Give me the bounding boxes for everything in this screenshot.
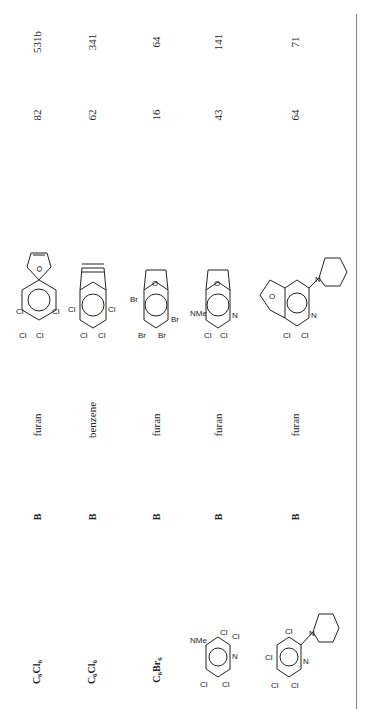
method-cell: B (32, 514, 43, 521)
adduct-structure-5: O N N Cl Cl (255, 250, 350, 340)
yield-cell: 16 (150, 110, 162, 121)
svg-text:Cl: Cl (285, 627, 293, 636)
svg-text:Cl: Cl (301, 331, 309, 340)
ref-cell: 71 (289, 37, 301, 48)
yield-cell: 64 (289, 110, 301, 121)
svg-text:Cl: Cl (80, 331, 88, 340)
svg-text:Cl: Cl (220, 331, 228, 340)
trap-cell: furan (289, 413, 301, 436)
svg-text:Cl: Cl (222, 680, 230, 689)
substrate-formula: C6Br6 (151, 657, 164, 682)
method-cell: B (213, 514, 224, 521)
svg-text:O: O (35, 266, 44, 272)
adduct-structure-1: O Cl Cl Cl Cl (14, 240, 64, 340)
ref-cell: 531b (31, 31, 43, 53)
svg-text:Cl: Cl (108, 305, 116, 314)
svg-text:Cl: Cl (291, 681, 299, 690)
svg-text:Br: Br (171, 315, 179, 324)
svg-text:N: N (303, 657, 309, 666)
svg-text:Cl: Cl (204, 331, 212, 340)
substrate-formula: C6Cl6 (31, 660, 44, 684)
svg-text:N: N (232, 652, 238, 661)
svg-text:Cl: Cl (98, 331, 106, 340)
svg-text:Cl: Cl (36, 331, 44, 340)
svg-text:Cl: Cl (52, 307, 60, 316)
yield-cell: 62 (86, 110, 98, 121)
substrate-structure-5: N N Cl Cl Cl Cl (265, 600, 345, 690)
svg-text:N: N (311, 311, 317, 320)
trap-cell: furan (31, 413, 43, 436)
svg-text:Cl: Cl (16, 307, 24, 316)
svg-text:N: N (309, 629, 315, 638)
svg-text:Cl: Cl (265, 653, 273, 662)
svg-text:Br: Br (138, 331, 146, 340)
svg-text:Cl: Cl (19, 331, 27, 340)
svg-text:N: N (315, 275, 321, 284)
svg-text:Br: Br (158, 331, 166, 340)
svg-text:O: O (214, 279, 220, 288)
method-cell: B (290, 514, 301, 521)
yield-cell: 43 (212, 110, 224, 121)
substrate-formula: C6Cl6 (86, 660, 99, 684)
adduct-structure-3: O Br Br Br Br (130, 240, 182, 340)
adduct-structure-2: Cl Cl Cl Cl (68, 240, 118, 340)
substrate-structure-4: NMe Cl N Cl Cl Cl (190, 625, 250, 690)
svg-text:Cl: Cl (200, 680, 208, 689)
ref-cell: 341 (86, 34, 98, 51)
svg-text:Cl: Cl (220, 628, 228, 637)
svg-text:O: O (152, 279, 158, 288)
svg-text:Br: Br (130, 295, 138, 304)
svg-text:Cl: Cl (271, 681, 279, 690)
svg-text:Cl: Cl (283, 331, 291, 340)
trap-cell: benzene (86, 402, 98, 438)
trap-cell: furan (150, 413, 162, 436)
svg-text:Cl: Cl (232, 632, 240, 641)
adduct-structure-4: O N NMe Cl Cl (190, 240, 245, 340)
method-cell: B (151, 514, 162, 521)
svg-text:NMe: NMe (190, 636, 207, 645)
yield-cell: 82 (31, 110, 43, 121)
svg-text:N: N (232, 311, 238, 320)
svg-text:NMe: NMe (190, 309, 207, 318)
svg-text:O: O (269, 292, 275, 301)
ref-cell: 64 (150, 37, 162, 48)
table-rule (356, 14, 357, 709)
ref-cell: 141 (212, 34, 224, 51)
method-cell: B (87, 514, 98, 521)
trap-cell: furan (212, 413, 224, 436)
svg-text:Cl: Cl (68, 305, 76, 314)
